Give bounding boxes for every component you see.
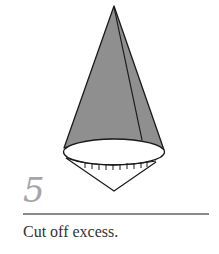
divider-rule [23,213,209,215]
cone-body [64,6,164,150]
step-number: 5 [23,170,45,210]
step-caption: Cut off excess. [23,222,118,242]
cone-illustration [0,0,219,254]
